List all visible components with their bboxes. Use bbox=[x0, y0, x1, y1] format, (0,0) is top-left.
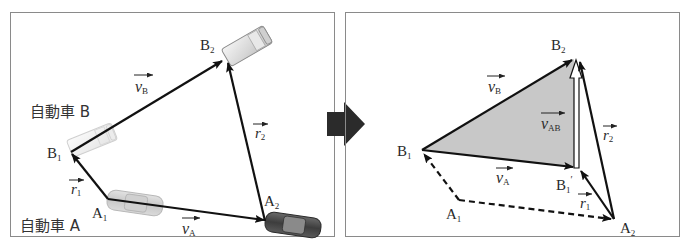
point-A2-right: A2 bbox=[620, 220, 635, 238]
svg-text:vB: vB bbox=[488, 78, 501, 96]
label-r1-left: r1 bbox=[69, 180, 84, 198]
svg-text:r2: r2 bbox=[603, 127, 613, 144]
label-vA-right: vA bbox=[496, 168, 513, 187]
point-B2-right: B2 bbox=[551, 37, 566, 55]
dashed-r1-original bbox=[424, 154, 459, 200]
point-A1-right: A1 bbox=[446, 206, 461, 224]
car-b-label: 自動車 B bbox=[30, 103, 90, 121]
point-A2-left: A2 bbox=[264, 193, 279, 211]
label-vB-left: vB bbox=[134, 75, 153, 96]
label-r2-left: r2 bbox=[253, 124, 268, 142]
point-B1-left: B1 bbox=[47, 145, 62, 163]
left-frame bbox=[11, 13, 335, 237]
label-vB-right: vB bbox=[487, 76, 505, 96]
car-a-position-2-icon bbox=[264, 211, 322, 239]
vector-r2-left bbox=[228, 63, 265, 221]
right-panel: B1 B2 B1′ A1 A2 vB vAB vA r2 r1 bbox=[346, 13, 680, 239]
label-r1-right: r1 bbox=[578, 194, 592, 212]
car-b-position-2-icon bbox=[221, 25, 273, 66]
svg-text:r1: r1 bbox=[580, 195, 590, 212]
svg-text:vB: vB bbox=[135, 78, 148, 96]
label-r2-right: r2 bbox=[603, 126, 617, 144]
svg-text:vA: vA bbox=[496, 169, 510, 187]
point-B1-right: B1 bbox=[397, 143, 412, 161]
relative-velocity-diagram: 自動車 B 自動車 A B1 B2 A1 A2 vB vA r1 r2 bbox=[0, 0, 689, 252]
svg-text:vA: vA bbox=[182, 220, 196, 238]
point-B1-prime: B1′ bbox=[556, 174, 573, 195]
left-panel: 自動車 B 自動車 A B1 B2 A1 A2 vB vA r1 r2 bbox=[11, 13, 335, 239]
svg-text:r2: r2 bbox=[255, 125, 265, 142]
svg-text:r1: r1 bbox=[71, 181, 81, 198]
point-A1-left: A1 bbox=[92, 205, 107, 223]
label-vA-left: vA bbox=[182, 218, 200, 238]
car-a-label: 自動車 A bbox=[20, 217, 81, 235]
point-B2-left: B2 bbox=[200, 37, 215, 55]
